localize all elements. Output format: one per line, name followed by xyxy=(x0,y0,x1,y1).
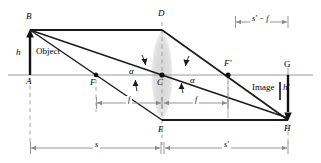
label-object-height: h xyxy=(16,48,21,57)
angle-marker-right-lower xyxy=(182,83,184,93)
dimension-label-sprime-minus-f: s' − f xyxy=(250,15,270,23)
label-point-B: B xyxy=(26,12,32,21)
label-point-A: A xyxy=(26,77,32,86)
label-image-height: h' xyxy=(283,83,289,92)
label-point-H: H xyxy=(284,124,291,133)
dimension-label-f-left: f xyxy=(126,96,132,104)
label-image-word: Image xyxy=(252,83,275,92)
label-point-F: F xyxy=(90,78,96,87)
label-point-G: G xyxy=(284,60,291,69)
optics-ray-diagram: B A h Object F D C E F' G H Image h' α α… xyxy=(0,0,321,163)
label-object-word: Object xyxy=(36,47,60,56)
label-angle-left: α xyxy=(129,67,134,76)
label-point-D: D xyxy=(158,9,165,18)
label-point-E: E xyxy=(158,125,164,134)
label-point-Fprime: F' xyxy=(224,59,231,68)
dimension-label-s: s xyxy=(93,141,100,149)
angle-marker-left-upper xyxy=(142,55,146,65)
angle-marker-right-upper xyxy=(186,56,190,66)
label-point-C: C xyxy=(157,78,163,87)
dimension-label-f-right: f xyxy=(193,96,199,104)
dimension-label-sprime: s' xyxy=(222,141,231,149)
angle-marker-left-lower xyxy=(136,80,138,91)
label-angle-right: α xyxy=(190,76,195,85)
point-dot-Fprime xyxy=(225,72,230,77)
